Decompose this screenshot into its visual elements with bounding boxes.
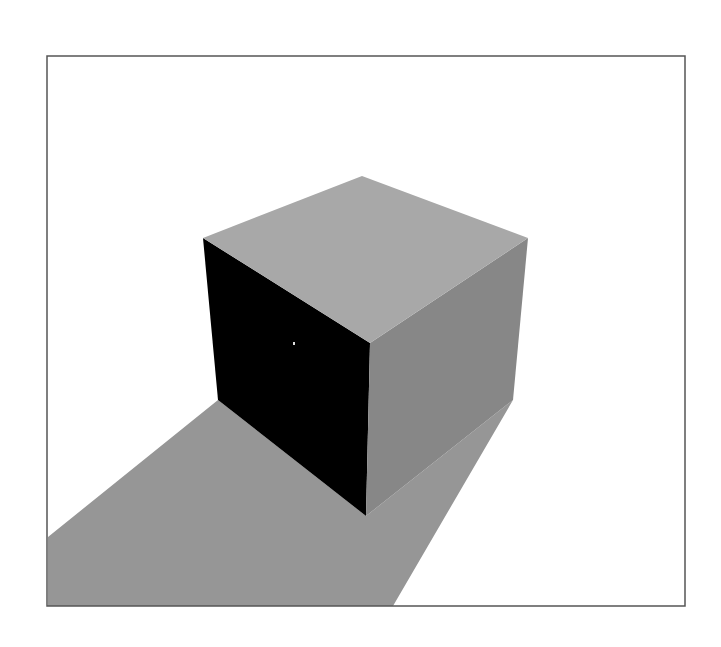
render-viewport: Rendered cube with cast shadow bbox=[0, 0, 721, 647]
scene-canvas bbox=[0, 0, 721, 647]
highlight-speck bbox=[293, 342, 295, 345]
